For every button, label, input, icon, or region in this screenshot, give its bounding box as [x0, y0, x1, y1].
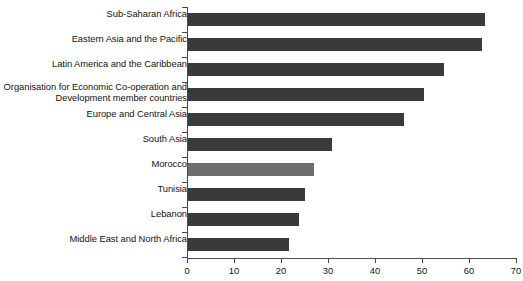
bar	[187, 13, 485, 26]
bar	[187, 88, 424, 101]
x-axis-tick	[187, 258, 188, 263]
y-axis-tick	[182, 82, 187, 83]
x-axis-tick-label: 60	[449, 265, 489, 276]
bar-row: Tunisia	[0, 182, 523, 207]
bar-category-label: Organisation for Economic Co-operation a…	[2, 81, 187, 103]
bar-row: Eastern Asia and the Pacific	[0, 32, 523, 57]
x-axis-tick-label: 20	[261, 265, 301, 276]
y-axis-tick	[182, 182, 187, 183]
bar-row: Europe and Central Asia	[0, 107, 523, 132]
bar-category-label: Morocco	[7, 158, 187, 169]
bar	[187, 38, 482, 51]
x-axis-tick	[234, 258, 235, 263]
y-axis-tick	[182, 157, 187, 158]
bar-track	[187, 88, 523, 101]
bar	[187, 113, 404, 126]
bar	[187, 63, 444, 76]
bar-track	[187, 63, 523, 76]
x-axis-tick-label: 70	[496, 265, 523, 276]
x-axis-tick-label: 0	[167, 265, 207, 276]
x-axis-tick	[469, 258, 470, 263]
bar-track	[187, 13, 523, 26]
bar	[187, 238, 289, 251]
bar-category-label: Europe and Central Asia	[7, 108, 187, 119]
bar-category-label: Tunisia	[7, 183, 187, 194]
bar-track	[187, 163, 523, 176]
bar-track	[187, 188, 523, 201]
y-axis-tick	[182, 232, 187, 233]
x-axis-tick-label: 10	[214, 265, 254, 276]
bar	[187, 138, 332, 151]
x-axis-tick	[281, 258, 282, 263]
bar-row: Morocco	[0, 157, 523, 182]
bar-row: Organisation for Economic Co-operation a…	[0, 82, 523, 107]
horizontal-bar-chart: Sub-Saharan AfricaEastern Asia and the P…	[0, 0, 523, 281]
bar-track	[187, 138, 523, 151]
bar	[187, 163, 314, 176]
bar-row: South Asia	[0, 132, 523, 157]
x-axis-line	[187, 258, 516, 259]
bar-track	[187, 238, 523, 251]
bar-category-label: Lebanon	[7, 208, 187, 219]
bar-row: Lebanon	[0, 207, 523, 232]
y-axis-tick	[182, 7, 187, 8]
bar-category-label: Sub-Saharan Africa	[7, 8, 187, 19]
y-axis-tick	[182, 207, 187, 208]
x-axis-tick	[516, 258, 517, 263]
y-axis-tick	[182, 57, 187, 58]
y-axis-tick	[182, 32, 187, 33]
bar-track	[187, 38, 523, 51]
bar-rows-container: Sub-Saharan AfricaEastern Asia and the P…	[0, 0, 523, 256]
y-axis-tick	[182, 132, 187, 133]
bar-category-label: Middle East and North Africa	[7, 233, 187, 244]
x-axis-tick-label: 40	[355, 265, 395, 276]
bar-row: Sub-Saharan Africa	[0, 7, 523, 32]
y-axis-tick	[182, 257, 187, 258]
bar-category-label: South Asia	[7, 133, 187, 144]
bar	[187, 213, 299, 226]
bar-category-label: Eastern Asia and the Pacific	[7, 33, 187, 44]
x-axis-tick	[328, 258, 329, 263]
y-axis-tick	[182, 107, 187, 108]
x-axis-tick	[375, 258, 376, 263]
x-axis-tick-label: 50	[402, 265, 442, 276]
bar	[187, 188, 305, 201]
x-axis-tick-label: 30	[308, 265, 348, 276]
bar-row: Middle East and North Africa	[0, 232, 523, 257]
bar-track	[187, 213, 523, 226]
bar-track	[187, 113, 523, 126]
bar-category-label: Latin America and the Caribbean	[7, 58, 187, 69]
y-axis-line	[187, 7, 188, 258]
x-axis-tick	[422, 258, 423, 263]
bar-row: Latin America and the Caribbean	[0, 57, 523, 82]
